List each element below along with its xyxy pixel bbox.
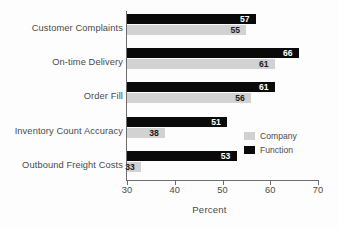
category-label: Outbound Freight Costs <box>22 160 123 170</box>
bar-value-label: 57 <box>240 14 250 24</box>
chart-legend: Company Function <box>244 130 297 158</box>
x-axis-tick-label: 60 <box>265 185 275 195</box>
legend-item-function: Function <box>244 144 297 155</box>
x-axis-tick-label: 50 <box>217 185 227 195</box>
x-axis-title-text: Percent <box>192 204 226 215</box>
bar-value-label: 56 <box>235 93 245 103</box>
bar-company <box>127 128 165 138</box>
legend-swatch-company-icon <box>244 132 255 140</box>
bar-function <box>127 82 275 92</box>
bar-function <box>127 14 256 24</box>
category-label: Order Fill <box>84 91 123 101</box>
bar-function <box>127 48 299 58</box>
bar-value-label: 61 <box>259 82 269 92</box>
bar-value-label: 33 <box>125 162 135 172</box>
bar-value-label: 66 <box>283 48 293 58</box>
bar-chart: Customer ComplaintsOn-time DeliveryOrder… <box>0 0 339 229</box>
bar-company <box>127 25 246 35</box>
bar-value-label: 51 <box>211 117 221 127</box>
bar-company <box>127 93 251 103</box>
x-axis-title: Percent <box>0 204 339 215</box>
bar-company <box>127 59 275 69</box>
legend-label-company: Company <box>260 131 297 141</box>
bar-value-label: 61 <box>259 59 269 69</box>
bar-value-label: 38 <box>149 128 159 138</box>
category-label: On-time Delivery <box>52 57 123 67</box>
bar-value-label: 55 <box>230 25 240 35</box>
x-axis-tick-label: 70 <box>313 185 323 195</box>
x-axis-tick-label: 40 <box>170 185 180 195</box>
legend-label-function: Function <box>260 145 293 155</box>
bar-value-label: 53 <box>221 151 231 161</box>
legend-swatch-function-icon <box>244 146 255 154</box>
legend-item-company: Company <box>244 130 297 141</box>
category-label: Customer Complaints <box>32 23 123 33</box>
category-label: Inventory Count Accuracy <box>15 126 123 136</box>
x-axis-tick-label: 30 <box>122 185 132 195</box>
